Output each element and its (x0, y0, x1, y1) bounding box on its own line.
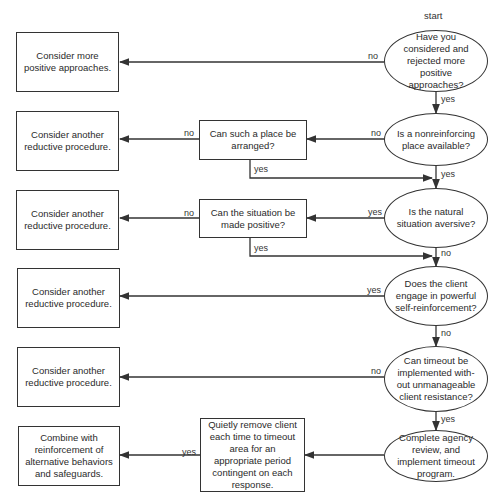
start-label: start (424, 10, 442, 21)
label-d1-yes: yes (441, 94, 455, 104)
label-m1-yes: yes (254, 164, 268, 174)
box-place-arranged: Can such a place be arranged? (199, 120, 307, 160)
box-situation-positive: Can the situation be made positive? (199, 199, 307, 238)
label-m3-yes: yes (182, 447, 196, 457)
label-d5-no: no (371, 366, 381, 376)
label-d3-yes: yes (368, 207, 382, 217)
label-d4-no: no (441, 328, 451, 338)
label-d1-no: no (368, 51, 378, 61)
decision-self-reinforcement: Does the client engage in powerful self-… (384, 266, 488, 326)
outcome-combine-reinforcement: Combine with reinforcement of alternativ… (18, 426, 120, 486)
decision-timeout-resistance: Can timeout be implemented with-out unma… (384, 346, 488, 412)
label-d2-no: no (371, 128, 381, 138)
outcome-another-reductive-2: Consider another reductive procedure. (16, 190, 119, 250)
label-m1-no: no (184, 128, 194, 138)
outcome-another-reductive-4: Consider another reductive procedure. (17, 347, 120, 407)
label-d2-yes: yes (441, 169, 455, 179)
decision-nonreinforcing-place: Is a nonreinforcing place available? (384, 113, 488, 166)
action-implement-timeout: Complete agency review, and implement ti… (384, 430, 488, 482)
label-d5-yes: yes (441, 414, 455, 424)
outcome-another-reductive-3: Consider another reductive procedure. (17, 268, 120, 328)
outcome-more-positive: Consider more positive approaches. (16, 32, 119, 92)
label-d3-no: no (441, 248, 451, 258)
label-d4-yes: yes (367, 285, 381, 295)
decision-positive-approaches: Have you considered and rejected more po… (384, 30, 488, 92)
outcome-another-reductive-1: Consider another reductive procedure. (16, 111, 119, 171)
label-m2-no: no (184, 208, 194, 218)
box-quietly-remove: Quietly remove client each time to timeo… (200, 418, 305, 492)
label-m2-yes: yes (254, 243, 268, 253)
decision-situation-aversive: Is the natural situation aversive? (384, 188, 488, 248)
